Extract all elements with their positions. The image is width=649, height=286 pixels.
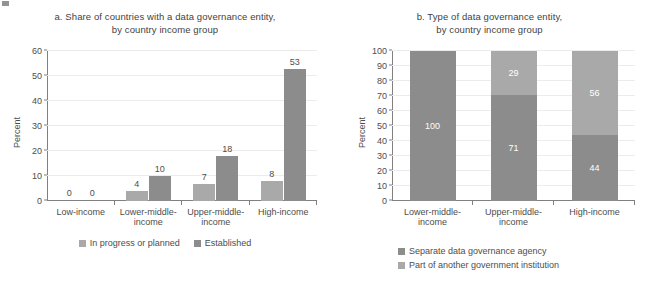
- bar-segment-value-label: 29: [508, 68, 518, 78]
- bar[interactable]: 7: [193, 184, 215, 202]
- bar-segment[interactable]: 44: [572, 135, 618, 201]
- y-tick-label: 50: [32, 71, 42, 81]
- bar-value-label: 0: [67, 188, 72, 198]
- chart-b-plot-area: 0102030405060708090100 100Lower-middle-i…: [392, 51, 635, 201]
- bar-segment-value-label: 71: [508, 143, 518, 153]
- y-tick-label: 90: [377, 61, 387, 71]
- bar-value-label: 10: [155, 164, 165, 174]
- y-tick-label: 80: [377, 76, 387, 86]
- bar-segment[interactable]: 100: [410, 51, 456, 201]
- y-tick-label: 20: [377, 166, 387, 176]
- y-tick-label: 30: [32, 121, 42, 131]
- chart-b-title-line2: by country income group: [330, 23, 649, 36]
- chart-b-title: b. Type of data governance entity, by co…: [330, 10, 649, 36]
- legend-item[interactable]: In progress or planned: [79, 238, 180, 248]
- y-tick-label: 20: [32, 146, 42, 156]
- chart-b-bar-groups: 100Lower-middle-income7129Upper-middle-i…: [392, 51, 635, 201]
- bar-segment[interactable]: 71: [491, 95, 537, 202]
- x-tick-mark: [114, 201, 115, 205]
- bar-value-label: 0: [90, 188, 95, 198]
- bar-segment[interactable]: 29: [491, 51, 537, 95]
- bar-segment[interactable]: 56: [572, 51, 618, 135]
- y-tick-label: 40: [377, 136, 387, 146]
- y-tick-label: 60: [32, 46, 42, 56]
- chart-a-title-line1: a. Share of countries with a data govern…: [0, 10, 330, 23]
- x-axis-category-label: High-income: [542, 207, 647, 217]
- chart-a-bar-groups: 00Low-income410Lower-middle-income718Upp…: [47, 51, 317, 201]
- bar-group: 7129Upper-middle-income: [473, 51, 554, 201]
- chart-a-legend: In progress or plannedEstablished: [0, 238, 330, 248]
- legend-label: Part of another government institution: [409, 260, 559, 270]
- bar[interactable]: 18: [216, 156, 238, 201]
- legend-swatch-icon: [398, 248, 405, 255]
- chart-a-plot-area: 0102030405060 00Low-income410Lower-middl…: [47, 51, 317, 201]
- x-tick-mark: [249, 201, 250, 205]
- chart-b-legend: Separate data governance agencyPart of a…: [330, 246, 649, 270]
- y-tick-label: 10: [32, 171, 42, 181]
- bar-segment-value-label: 100: [425, 121, 440, 131]
- chart-b-y-axis-label: Percent: [357, 117, 367, 148]
- bar-value-label: 7: [202, 172, 207, 182]
- legend-swatch-icon: [79, 240, 86, 247]
- x-axis-category-label: High-income: [238, 207, 330, 217]
- y-tick-label: 30: [377, 151, 387, 161]
- bar-group: 853High-income: [250, 51, 318, 201]
- bar[interactable]: 10: [149, 176, 171, 201]
- y-tick-label: 40: [32, 96, 42, 106]
- bar-group: 100Lower-middle-income: [392, 51, 473, 201]
- y-tick-label: 50: [377, 121, 387, 131]
- bar-value-label: 18: [222, 144, 232, 154]
- bar-value-label: 4: [134, 179, 139, 189]
- y-tick-label: 100: [372, 46, 387, 56]
- x-tick-mark: [634, 201, 635, 205]
- legend-label: Separate data governance agency: [409, 246, 547, 256]
- chart-a-title-line2: by country income group: [0, 23, 330, 36]
- bar-group: 718Upper-middle-income: [182, 51, 250, 201]
- x-tick-mark: [553, 201, 554, 205]
- y-tick-label: 10: [377, 181, 387, 191]
- legend-label: Established: [205, 238, 252, 248]
- bar-value-label: 8: [269, 169, 274, 179]
- x-tick-mark: [316, 201, 317, 205]
- bar-segment-value-label: 56: [589, 88, 599, 98]
- legend-swatch-icon: [194, 240, 201, 247]
- y-tick-label: 0: [37, 196, 42, 206]
- chart-a-title: a. Share of countries with a data govern…: [0, 10, 330, 36]
- bar[interactable]: 4: [126, 191, 148, 201]
- legend-item[interactable]: Separate data governance agency: [398, 246, 547, 256]
- bar-group: 4456High-income: [554, 51, 635, 201]
- legend-swatch-icon: [398, 262, 405, 269]
- x-tick-mark: [472, 201, 473, 205]
- legend-item[interactable]: Established: [194, 238, 252, 248]
- y-tick-label: 0: [382, 196, 387, 206]
- chart-a-y-axis-label: Percent: [12, 117, 22, 148]
- legend-label: In progress or planned: [90, 238, 180, 248]
- bar-group: 00Low-income: [47, 51, 115, 201]
- chart-panel-b: b. Type of data governance entity, by co…: [330, 0, 649, 286]
- bar[interactable]: 53: [284, 69, 306, 202]
- bar-value-label: 53: [290, 57, 300, 67]
- chart-b-title-line1: b. Type of data governance entity,: [330, 10, 649, 23]
- legend-item[interactable]: Part of another government institution: [398, 260, 559, 270]
- y-tick-label: 70: [377, 91, 387, 101]
- bar[interactable]: 8: [261, 181, 283, 201]
- bar-segment-value-label: 44: [589, 163, 599, 173]
- chart-panel-a: a. Share of countries with a data govern…: [0, 0, 330, 286]
- y-tick-label: 60: [377, 106, 387, 116]
- bar-group: 410Lower-middle-income: [115, 51, 183, 201]
- x-tick-mark: [181, 201, 182, 205]
